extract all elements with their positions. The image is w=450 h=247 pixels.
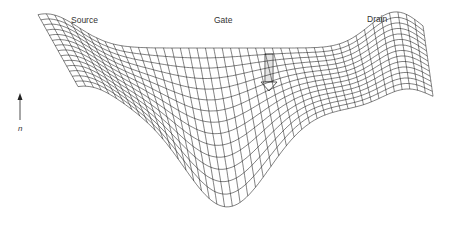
gate-arrow-icon bbox=[261, 54, 277, 91]
axis-arrow-icon bbox=[18, 93, 23, 120]
diagram: Source Gate Drain n bbox=[0, 0, 450, 247]
wireframe-surface bbox=[0, 0, 450, 247]
